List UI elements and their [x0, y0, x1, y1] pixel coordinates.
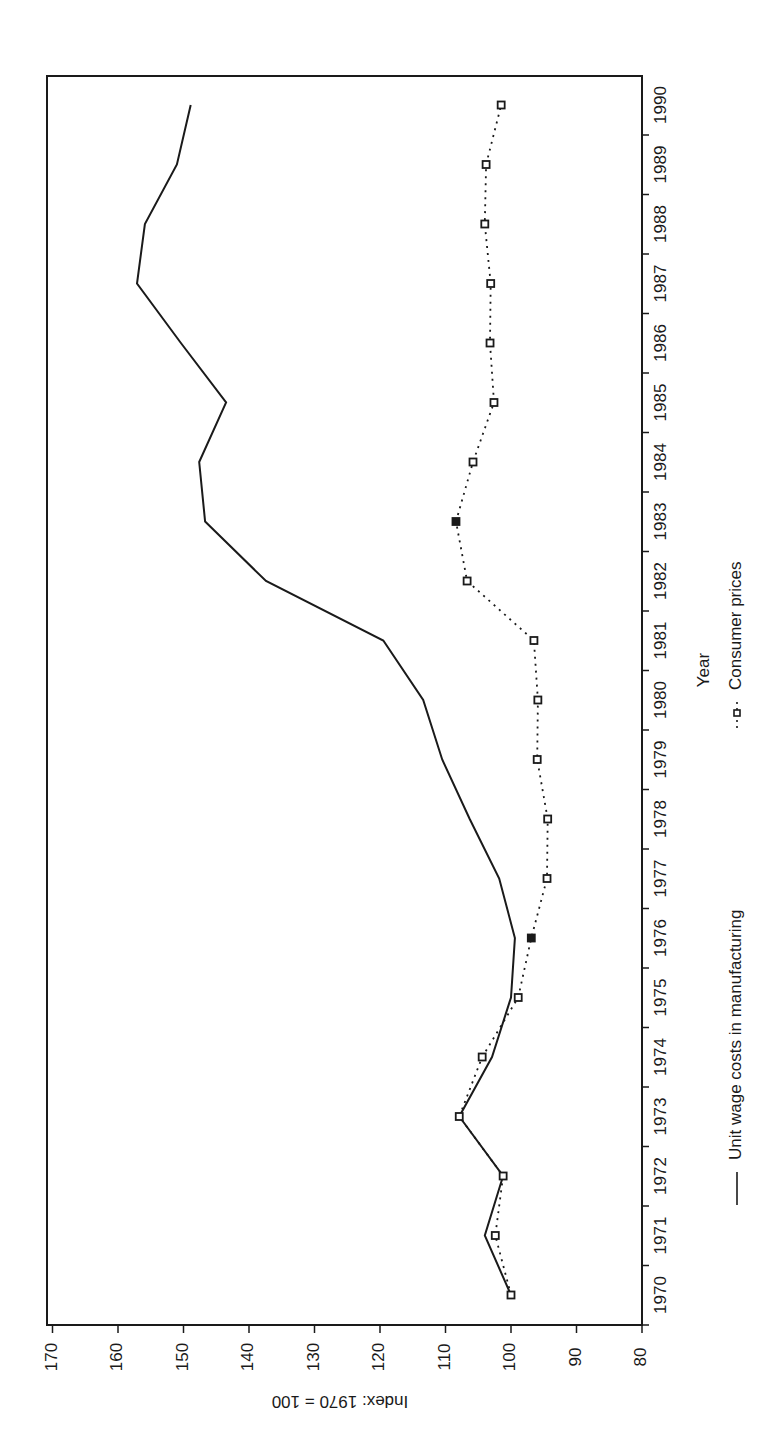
- data-point-consumer-prices: [534, 697, 541, 704]
- year-tick-label: 1977: [651, 860, 670, 898]
- year-tick-label: 1989: [651, 146, 670, 184]
- year-tick-label: 1982: [651, 562, 670, 600]
- data-point-consumer-prices: [544, 875, 551, 882]
- year-tick-label: 1976: [651, 919, 670, 957]
- data-point-consumer-prices: [492, 1232, 499, 1239]
- data-point-consumer-prices: [479, 1054, 486, 1061]
- year-tick-label: 1984: [651, 443, 670, 481]
- data-point-consumer-prices: [534, 756, 541, 763]
- data-point-consumer-prices: [481, 221, 488, 228]
- value-tick-label: 90: [566, 1348, 585, 1367]
- year-axis-ticks: 1970197119721973197419751976197719781979…: [642, 86, 670, 1325]
- legend-label-consumer-prices: Consumer prices: [726, 562, 745, 691]
- year-tick-label: 1978: [651, 800, 670, 838]
- value-axis-title: Index: 1970 = 100: [272, 1392, 409, 1411]
- data-point-consumer-prices: [500, 1173, 507, 1180]
- year-tick-label: 1986: [651, 324, 670, 362]
- value-tick-label: 100: [500, 1343, 519, 1371]
- data-point-consumer-prices: [528, 935, 535, 942]
- value-tick-label: 80: [631, 1348, 650, 1367]
- plot-frame: [47, 76, 642, 1325]
- chart: 8090100110120130140150160170 19701971197…: [0, 0, 761, 1440]
- value-tick-label: 130: [304, 1343, 323, 1371]
- year-axis-title: Year: [694, 652, 713, 687]
- data-point-consumer-prices: [508, 1292, 515, 1299]
- value-tick-label: 140: [238, 1343, 257, 1371]
- year-tick-label: 1988: [651, 205, 670, 243]
- year-tick-label: 1972: [651, 1157, 670, 1195]
- data-point-consumer-prices: [515, 994, 522, 1001]
- data-point-consumer-prices: [456, 1113, 463, 1120]
- legend-square-marker-icon: [734, 710, 740, 716]
- data-point-consumer-prices: [470, 459, 477, 466]
- year-tick-label: 1979: [651, 741, 670, 779]
- data-point-consumer-prices: [490, 399, 497, 406]
- value-tick-label: 110: [435, 1343, 454, 1370]
- year-tick-label: 1990: [651, 86, 670, 124]
- data-point-consumer-prices: [464, 578, 471, 585]
- series-layer: [137, 102, 551, 1299]
- data-point-consumer-prices: [487, 340, 494, 347]
- year-tick-label: 1975: [651, 979, 670, 1017]
- year-tick-label: 1985: [651, 384, 670, 422]
- year-tick-label: 1970: [651, 1276, 670, 1314]
- value-tick-label: 150: [173, 1343, 192, 1371]
- year-tick-label: 1981: [651, 622, 670, 660]
- year-tick-label: 1971: [651, 1217, 670, 1255]
- value-tick-label: 120: [369, 1343, 388, 1371]
- value-tick-label: 170: [42, 1343, 61, 1371]
- year-tick-label: 1973: [651, 1098, 670, 1136]
- data-point-consumer-prices: [452, 518, 459, 525]
- year-tick-label: 1980: [651, 681, 670, 719]
- data-point-consumer-prices: [530, 637, 537, 644]
- year-tick-label: 1987: [651, 265, 670, 303]
- year-tick-label: 1974: [651, 1038, 670, 1076]
- value-tick-label: 160: [107, 1343, 126, 1371]
- data-point-consumer-prices: [544, 816, 551, 823]
- data-point-consumer-prices: [487, 280, 494, 287]
- legend-label-unit-wage: Unit wage costs in manufacturing: [726, 910, 745, 1160]
- data-point-consumer-prices: [483, 161, 490, 168]
- data-point-consumer-prices: [498, 102, 505, 109]
- legend: Unit wage costs in manufacturing Consume…: [726, 562, 745, 1206]
- year-tick-label: 1983: [651, 503, 670, 541]
- value-axis-ticks: 8090100110120130140150160170: [42, 1325, 651, 1371]
